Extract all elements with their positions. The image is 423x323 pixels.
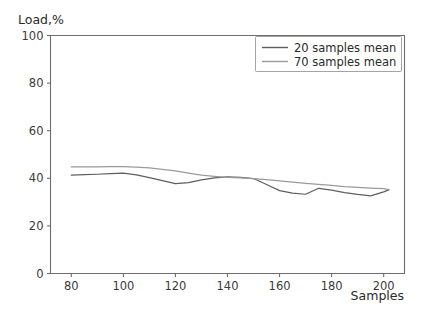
y-tick-label: 0	[36, 267, 43, 281]
x-tick-label: 160	[269, 279, 291, 293]
x-tick-label: 80	[64, 279, 79, 293]
line-chart: 020406080100 80100120140160180200 Load,%…	[0, 0, 423, 323]
legend-label-70-samples-mean: 70 samples mean	[294, 55, 396, 69]
x-tick-label: 100	[112, 279, 134, 293]
x-tick-label: 140	[217, 279, 239, 293]
legend-label-20-samples-mean: 20 samples mean	[294, 41, 396, 55]
y-tick-label: 100	[22, 29, 44, 43]
y-axis-label: Load,%	[18, 12, 64, 27]
x-tick-label: 180	[321, 279, 343, 293]
y-tick-label: 60	[29, 124, 44, 138]
x-tick-label: 120	[164, 279, 186, 293]
x-axis-label: Samples	[351, 288, 404, 303]
chart-legend[interactable]: 20 samples mean 70 samples mean	[256, 37, 402, 72]
y-tick-label: 40	[29, 171, 44, 185]
y-tick-label: 80	[29, 76, 44, 90]
chart-figure: 020406080100 80100120140160180200 Load,%…	[0, 0, 423, 323]
y-tick-label: 20	[29, 219, 44, 233]
